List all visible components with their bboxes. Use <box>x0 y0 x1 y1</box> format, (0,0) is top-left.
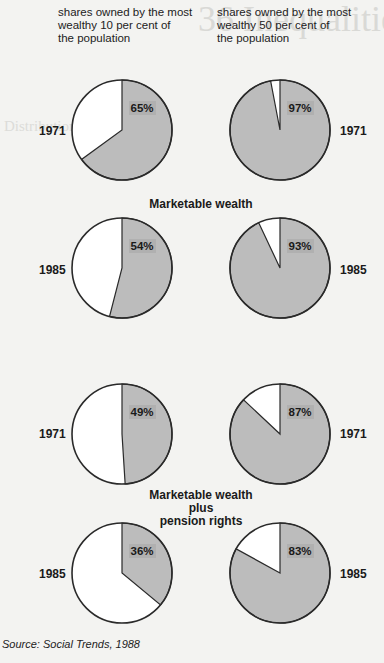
pie-percent-label: 97% <box>288 102 311 114</box>
pie-chart-5: 49% <box>72 384 172 484</box>
pie-percent-label: 54% <box>130 240 153 252</box>
pie-charts: 65%97%54%93%49%87%36%83% <box>0 0 384 663</box>
pie-chart-7: 36% <box>72 523 172 623</box>
year-label-right-r1: 1971 <box>340 124 367 138</box>
pie-chart-4: 93% <box>230 218 330 318</box>
pie-chart-2: 97% <box>230 80 330 180</box>
year-label-left-r3: 1971 <box>39 427 66 441</box>
pie-percent-label: 93% <box>288 240 311 252</box>
section-label-pension: Marketable wealth plus pension rights <box>101 489 301 528</box>
year-label-right-r3: 1971 <box>340 427 367 441</box>
year-label-right-r2: 1985 <box>340 263 367 277</box>
pie-percent-label: 36% <box>130 545 153 557</box>
source-note: Source: Social Trends, 1988 <box>2 638 140 650</box>
pie-slice-shaded <box>122 384 172 484</box>
section-label-marketable: Marketable wealth <box>101 198 301 211</box>
pie-chart-6: 87% <box>230 384 330 484</box>
pie-percent-label: 65% <box>130 102 153 114</box>
year-label-left-r1: 1971 <box>39 124 66 138</box>
year-label-left-r4: 1985 <box>39 567 66 581</box>
year-label-left-r2: 1985 <box>39 263 66 277</box>
section-line: pension rights <box>101 515 301 528</box>
pie-chart-8: 83% <box>230 523 330 623</box>
pie-percent-label: 49% <box>130 406 153 418</box>
pie-chart-1: 65% <box>72 80 172 180</box>
pie-percent-label: 87% <box>288 406 311 418</box>
year-label-right-r4: 1985 <box>340 567 367 581</box>
pie-percent-label: 83% <box>288 545 311 557</box>
pie-chart-3: 54% <box>72 218 172 318</box>
